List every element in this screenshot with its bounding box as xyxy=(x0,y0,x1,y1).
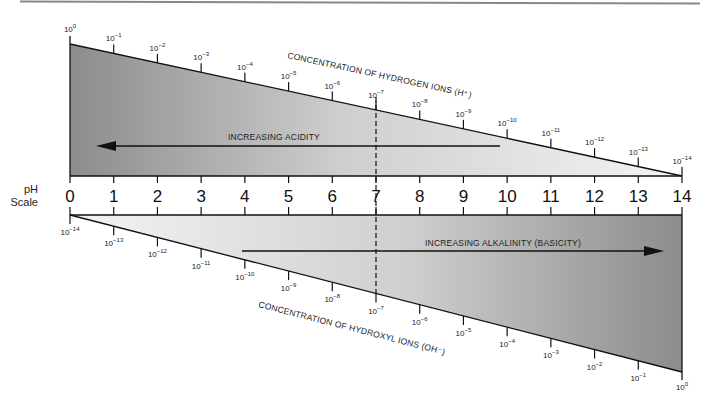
ph-value: 13 xyxy=(629,187,648,206)
hydroxyl-concentration-label: 10−13 xyxy=(104,237,124,248)
hydroxyl-concentration-label: 10−10 xyxy=(235,271,255,282)
hydrogen-concentration-label: 10−9 xyxy=(456,108,472,119)
hydroxyl-concentration-label: 10−14 xyxy=(60,226,80,237)
hydrogen-concentration-label: 10−13 xyxy=(629,146,649,157)
hydrogen-concentration-label: 10−7 xyxy=(368,89,384,100)
ph-value: 4 xyxy=(240,187,249,206)
hydroxyl-concentration-label: 100 xyxy=(676,381,689,392)
hydrogen-concentration-label: 10−3 xyxy=(193,51,209,62)
hydrogen-concentration-label: 10−2 xyxy=(150,42,166,53)
hydrogen-concentration-label: 10−12 xyxy=(585,136,605,147)
hydrogen-concentration-label: 10−5 xyxy=(281,70,297,81)
ph-value: 12 xyxy=(585,187,604,206)
hydroxyl-caption: CONCENTRATION OF HYDROXYL IONS (OH⁻) xyxy=(258,299,447,357)
hydroxyl-concentration-label: 10−5 xyxy=(456,327,472,338)
acidity-label: INCREASING ACIDITY xyxy=(228,132,320,142)
ph-value: 9 xyxy=(459,187,468,206)
hydroxyl-concentration-label: 10−1 xyxy=(630,372,646,383)
ph-label: pH xyxy=(24,183,38,195)
hydrogen-concentration-label: 10−4 xyxy=(237,61,253,72)
hydrogen-concentration-label: 100 xyxy=(64,23,77,34)
hydroxyl-concentration-label: 10−6 xyxy=(412,316,428,327)
hydroxyl-concentration-label: 10−9 xyxy=(281,282,297,293)
hydroxyl-concentration-label: 10−12 xyxy=(148,248,168,259)
hydroxyl-concentration-label: 10−7 xyxy=(368,305,384,316)
ph-value: 1 xyxy=(109,187,118,206)
alkalinity-label: INCREASING ALKALINITY (BASICITY) xyxy=(425,238,581,248)
ph-value: 14 xyxy=(673,187,692,206)
ph-value: 2 xyxy=(153,187,162,206)
hydroxyl-concentration-label: 10−8 xyxy=(324,293,340,304)
hydrogen-concentration-label: 10−11 xyxy=(542,127,561,138)
ph-value: 8 xyxy=(415,187,424,206)
hydrogen-concentration-label: 10−14 xyxy=(672,155,692,166)
hydroxyl-concentration-label: 10−4 xyxy=(499,338,515,349)
hydrogen-concentration-label: 10−6 xyxy=(324,80,340,91)
ph-value: 3 xyxy=(196,187,205,206)
hydroxyl-concentration-label: 10−11 xyxy=(192,260,211,271)
ph-scale-diagram: INCREASING ACIDITY INCREASING ALKALINITY… xyxy=(0,0,725,414)
scale-label: Scale xyxy=(10,196,38,208)
ph-value: 11 xyxy=(542,187,560,206)
hydrogen-concentration-label: 10−1 xyxy=(106,32,122,43)
hydroxyl-concentration-label: 10−3 xyxy=(543,349,559,360)
hydroxyl-concentration-label: 10−2 xyxy=(587,361,603,372)
hydrogen-concentration-label: 10−8 xyxy=(412,98,428,109)
ph-value: 10 xyxy=(498,187,517,206)
ph-value: 0 xyxy=(65,187,74,206)
hydrogen-concentration-label: 10−10 xyxy=(498,117,518,128)
ph-value: 7 xyxy=(371,187,380,206)
top-rule xyxy=(20,2,700,4)
ph-value: 5 xyxy=(284,187,293,206)
ph-value: 6 xyxy=(328,187,337,206)
